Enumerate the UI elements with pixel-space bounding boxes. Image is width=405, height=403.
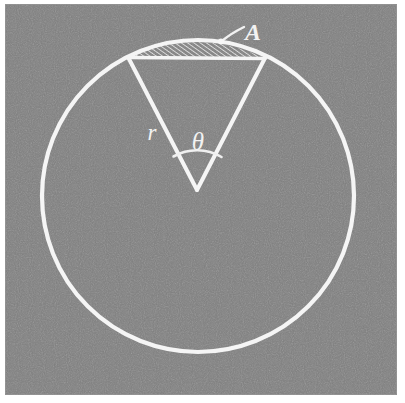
area-leader-tip-dot [218,39,224,45]
chord-line [128,58,265,59]
angle-theta-label: θ [192,128,204,155]
area-label: A [243,19,261,45]
panel-noise-overlay [5,4,397,395]
radius-label: r [148,120,158,145]
panel-group [5,4,397,395]
figure-root: r θ A [0,0,405,403]
circle-segment-diagram: r θ A [0,0,405,403]
